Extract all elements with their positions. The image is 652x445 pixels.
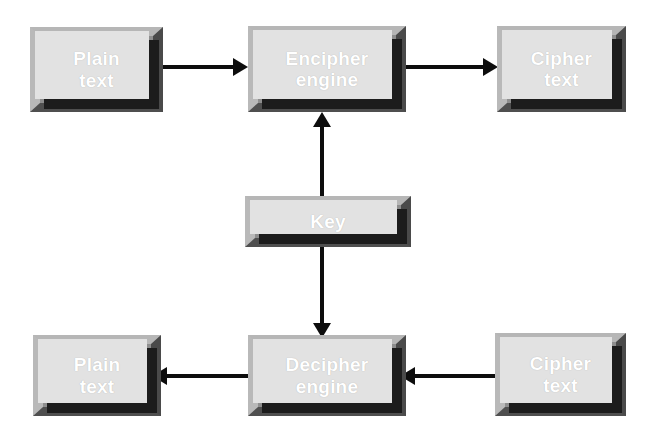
arrow-head-right (483, 58, 498, 76)
arrow-shaft (320, 125, 324, 200)
arrow-shaft (413, 374, 500, 378)
arrow-cipher-to-decipher (400, 367, 500, 385)
arrow-plain-to-encipher (152, 58, 248, 76)
node-decipher-engine: Decipher engine (248, 335, 406, 416)
arrow-head-right (233, 58, 248, 76)
node-label: Decipher engine (286, 354, 369, 397)
node-label: Encipher engine (286, 48, 369, 91)
arrow-shaft (320, 243, 324, 325)
arrow-head-up (313, 112, 331, 127)
node-cipher-text-bottom: Cipher text (495, 333, 626, 416)
node-key: Key (245, 196, 411, 247)
arrow-shaft (400, 65, 485, 69)
arrow-shaft (165, 374, 256, 378)
arrow-key-to-encipher (313, 112, 331, 200)
node-label: Plain text (74, 354, 120, 397)
arrow-key-to-decipher (313, 243, 331, 338)
node-label: Cipher text (531, 48, 592, 91)
node-label: Cipher text (530, 353, 591, 396)
arrow-encipher-to-cipher (400, 58, 498, 76)
node-plain-text-top: Plain text (30, 27, 163, 112)
node-cipher-text-top: Cipher text (497, 26, 626, 112)
arrow-shaft (152, 65, 235, 69)
node-encipher-engine: Encipher engine (248, 26, 406, 112)
node-label: Key (310, 211, 345, 232)
arrow-decipher-to-plain (152, 367, 256, 385)
node-plain-text-bottom: Plain text (33, 335, 161, 416)
diagram-canvas: Plain text Encipher engine Cipher text K… (0, 0, 652, 445)
node-label: Plain text (73, 48, 119, 91)
